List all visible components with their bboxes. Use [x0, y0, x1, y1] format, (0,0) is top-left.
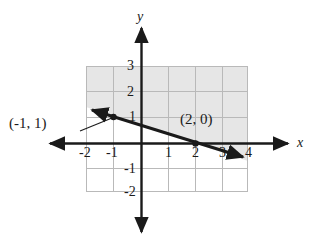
- coordinate-plane-svg: [0, 0, 318, 246]
- y-tick-label-1: 1: [129, 110, 136, 124]
- y-tick-label-2: 2: [127, 85, 134, 99]
- x-tick-label-4: 4: [245, 146, 252, 160]
- point-label-leader-line: [80, 118, 112, 131]
- x-tick-label--2: -2: [79, 146, 91, 160]
- y-tick-label--2: -2: [124, 185, 136, 199]
- x-tick-label--1: -1: [106, 146, 118, 160]
- point-label-2-0: (2, 0): [180, 112, 213, 127]
- graph-figure: -2 -1 1 2 3 4 3 2 1 -1 -2 y x (-1, 1) (2…: [0, 0, 318, 246]
- x-axis-name: x: [297, 136, 303, 150]
- y-tick-label-3: 3: [127, 59, 134, 73]
- x-tick-label-2: 2: [192, 146, 199, 160]
- point-marker-neg1-1: [110, 114, 116, 120]
- x-tick-label-3: 3: [219, 146, 226, 160]
- y-axis-name: y: [137, 10, 143, 24]
- point-label-neg1-1: (-1, 1): [9, 116, 47, 131]
- x-tick-label-1: 1: [165, 146, 172, 160]
- y-tick-label--1: -1: [124, 162, 136, 176]
